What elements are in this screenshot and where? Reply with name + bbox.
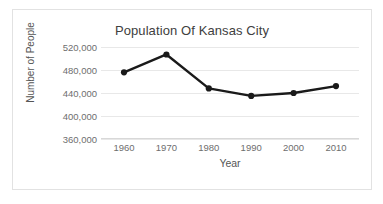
line-series bbox=[101, 47, 359, 139]
gridline bbox=[101, 139, 359, 140]
data-point-marker bbox=[248, 93, 254, 99]
y-axis-tick-label: 480,000 bbox=[63, 65, 97, 76]
data-point-marker bbox=[291, 90, 297, 96]
data-point-marker bbox=[206, 85, 212, 91]
x-axis-tick-label: 1960 bbox=[113, 142, 134, 153]
x-axis-tick-label: 1990 bbox=[241, 142, 262, 153]
data-point-marker bbox=[333, 83, 339, 89]
x-axis-tick-label: 2010 bbox=[325, 142, 346, 153]
series-line bbox=[124, 54, 336, 95]
chart-title: Population Of Kansas City bbox=[13, 23, 371, 38]
y-axis-tick-label: 440,000 bbox=[63, 88, 97, 99]
data-point-marker bbox=[121, 69, 127, 75]
x-axis-title: Year bbox=[101, 157, 359, 169]
x-axis-tick-label: 1980 bbox=[198, 142, 219, 153]
plot-area bbox=[101, 47, 359, 139]
chart-container: Population Of Kansas City Number of Peop… bbox=[12, 9, 372, 190]
x-axis-tick-labels: 196019701980199020002010 bbox=[101, 142, 359, 156]
x-axis-tick-label: 2000 bbox=[283, 142, 304, 153]
y-axis-tick-labels: 360,000400,000440,000480,000520,000 bbox=[41, 47, 97, 139]
data-point-marker bbox=[163, 51, 169, 57]
y-axis-tick-label: 360,000 bbox=[63, 134, 97, 145]
y-axis-title: Number of People bbox=[25, 15, 36, 111]
x-axis-tick-label: 1970 bbox=[156, 142, 177, 153]
y-axis-tick-label: 400,000 bbox=[63, 111, 97, 122]
y-axis-tick-label: 520,000 bbox=[63, 42, 97, 53]
